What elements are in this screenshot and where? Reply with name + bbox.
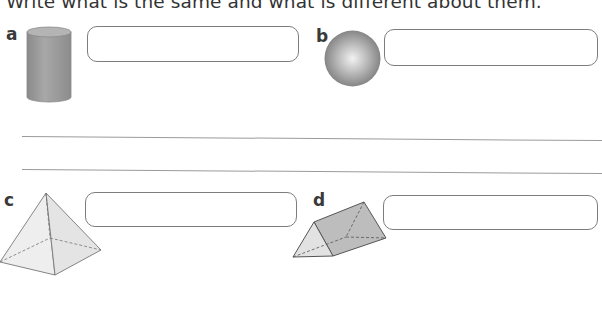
answer-box-a[interactable]: [87, 26, 299, 62]
answer-box-c[interactable]: [85, 192, 297, 227]
instruction-text: Write what is the same and what is diffe…: [6, 0, 542, 12]
sphere-icon: [324, 30, 381, 87]
item-label-a: a: [6, 24, 17, 44]
answer-box-b[interactable]: [384, 29, 598, 66]
writing-line-1[interactable]: [22, 136, 602, 141]
writing-line-2[interactable]: [22, 169, 602, 174]
answer-box-d[interactable]: [383, 195, 598, 230]
triangular-prism-icon: [292, 200, 388, 260]
cylinder-icon: [26, 26, 72, 104]
